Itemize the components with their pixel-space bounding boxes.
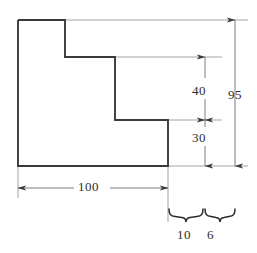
engineering-drawing-svg — [0, 0, 257, 253]
technical-drawing-canvas: 40 30 95 100 10 6 — [0, 0, 257, 253]
dimension-label-95: 95 — [228, 88, 242, 101]
dimension-label-40: 40 — [192, 84, 206, 97]
dimension-label-10: 10 — [177, 228, 191, 241]
part-outline — [18, 20, 168, 166]
brace-6 — [205, 209, 235, 222]
brace-10 — [169, 209, 203, 222]
dimension-label-100: 100 — [78, 180, 99, 193]
dimension-label-30: 30 — [192, 131, 206, 144]
extension-lines — [18, 20, 248, 222]
dimension-label-6: 6 — [207, 228, 214, 241]
